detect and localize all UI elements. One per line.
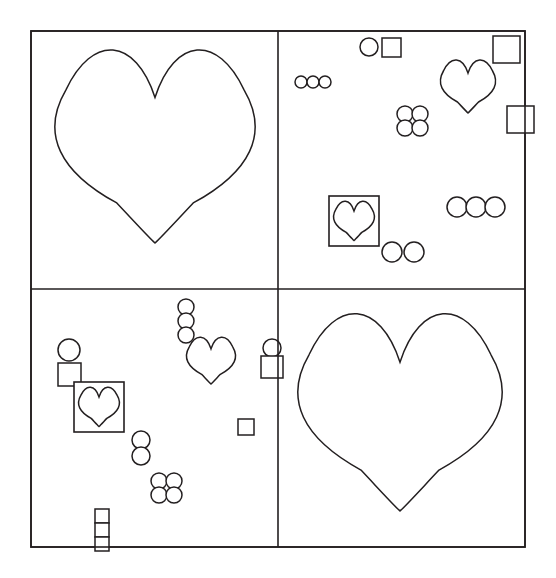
square-shape [507, 106, 534, 133]
circle-shape [382, 242, 402, 262]
circle-shape [360, 38, 378, 56]
circle-shape [485, 197, 505, 217]
circle-shape [295, 76, 307, 88]
circle-shape [319, 76, 331, 88]
square-shape [95, 537, 109, 551]
four-panel-shape-figure [0, 0, 556, 578]
circle-shape [166, 487, 182, 503]
circle-shape [151, 487, 167, 503]
circle-shape [58, 339, 80, 361]
circle-shape [466, 197, 486, 217]
square-shape [95, 509, 109, 523]
square-shape [95, 523, 109, 537]
figure-canvas [0, 0, 556, 578]
circle-shape [178, 327, 194, 343]
circle-shape [397, 120, 413, 136]
square-shape [382, 38, 401, 57]
square-shape [238, 419, 254, 435]
svg-root [31, 31, 534, 551]
square-shape [261, 356, 283, 378]
circle-shape [307, 76, 319, 88]
circle-shape [404, 242, 424, 262]
circle-shape [132, 447, 150, 465]
circle-shape [447, 197, 467, 217]
square-shape [493, 36, 520, 63]
circle-shape [412, 120, 428, 136]
